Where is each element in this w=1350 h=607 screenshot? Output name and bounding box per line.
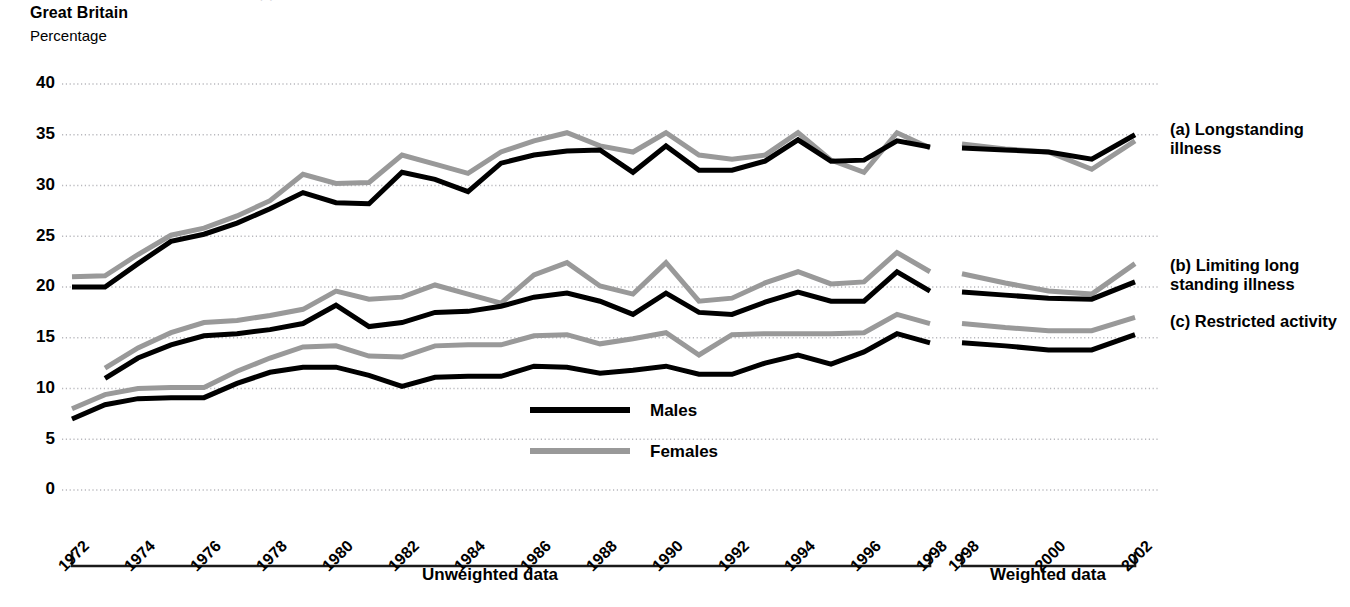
y-axis-tick-label: 0 (46, 479, 55, 498)
data-line-males (962, 335, 1135, 350)
x-axis-tick-label: 1978 (253, 537, 290, 574)
x-axis-tick-label: 1992 (715, 537, 752, 574)
y-axis-tick-label: 30 (36, 175, 55, 194)
x-axis-tick-label: 1976 (187, 537, 224, 574)
data-line-females (72, 314, 930, 408)
legend-group: MalesFemales (530, 401, 718, 461)
data-line-females (105, 252, 930, 368)
y-axis-tick-label: 25 (36, 226, 55, 245)
series-label-a: (a) Longstanding illness (1170, 120, 1350, 158)
y-axis-labels-group: 0510152025303540 (36, 73, 55, 498)
series-label-c: (c) Restricted activity (1170, 312, 1350, 331)
data-line-females (962, 141, 1135, 169)
x-axis-tick-label: 1980 (319, 537, 356, 574)
x-axis-tick-label: 1982 (385, 537, 422, 574)
data-line-males (72, 140, 930, 287)
series-label-b: (b) Limiting long standing illness (1170, 256, 1350, 294)
x-axis-tick-label: 2002 (1118, 537, 1155, 574)
legend-label-females: Females (650, 442, 718, 461)
y-axis-tick-label: 15 (36, 327, 55, 346)
legend-label-males: Males (650, 401, 697, 420)
x-axis-tick-label: 1972 (55, 537, 92, 574)
data-lines-group (72, 133, 1135, 419)
x-axis-tick-label: 1998 (913, 537, 950, 574)
y-axis-tick-label: 35 (36, 124, 55, 143)
x-axis-tick-label: 1974 (121, 537, 158, 574)
x-axis-tick-label: 1996 (847, 537, 884, 574)
y-axis-tick-label: 40 (36, 73, 55, 92)
data-line-females (962, 264, 1135, 294)
y-axis-tick-label: 20 (36, 276, 55, 295)
x-axis-tick-label: 1990 (649, 537, 686, 574)
y-axis-tick-label: 5 (46, 429, 55, 448)
group-labels-group: Unweighted dataWeighted data (422, 565, 1106, 584)
group-label-weighted: Weighted data (990, 565, 1106, 584)
y-axis-tick-label: 10 (36, 378, 55, 397)
x-axis-tick-label: 1998 (945, 537, 982, 574)
data-line-females (962, 317, 1135, 330)
x-axis-tick-label: 1994 (781, 537, 818, 574)
line-chart-svg: 0510152025303540 19721974197619781980198… (0, 0, 1350, 607)
data-line-females (72, 133, 930, 277)
chart-page: ( ) Great Britain Percentage 05101520253… (0, 0, 1350, 607)
x-axis-tick-label: 1988 (583, 537, 620, 574)
group-label-unweighted: Unweighted data (422, 565, 559, 584)
